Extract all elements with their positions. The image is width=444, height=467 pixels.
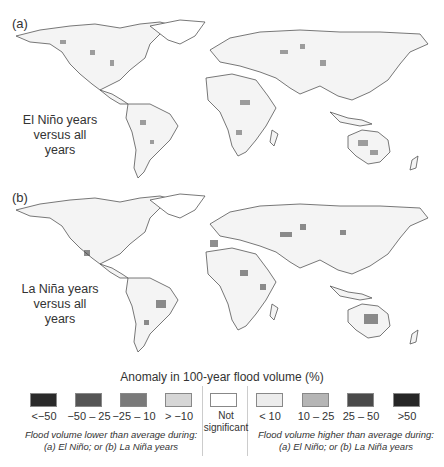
map-caption-la-nina: La Niña years versus all years <box>20 282 100 327</box>
swatch-25-50 <box>347 393 374 407</box>
swatch-gt-50 <box>393 393 420 407</box>
swatch-label: > −10 <box>154 410 204 422</box>
swatch-minus-25-10 <box>120 393 147 407</box>
map-panel-el-nino: (a) El Niño years versus all years <box>0 0 444 180</box>
swatch-label: <−50 <box>19 410 69 422</box>
caption-line1: El Niño years <box>20 113 100 128</box>
swatch-label: −25 – 10 <box>109 410 159 422</box>
swatch-label: 10 – 25 <box>291 410 341 422</box>
swatch-label: >50 <box>382 410 432 422</box>
swatch-label: < 10 <box>245 410 295 422</box>
note-line1: Flood volume higher than average during: <box>250 429 442 441</box>
caption-line2: versus all years <box>20 297 100 327</box>
note-line2: (a) El Niño; or (b) La Niña years <box>22 441 200 453</box>
panel-label-a: (a) <box>12 16 28 31</box>
swatch-lt-minus-50 <box>30 393 57 407</box>
note-line2: (a) El Niño; or (b) La Niña years <box>250 441 442 453</box>
swatch-label: −50 – 25 <box>64 410 114 422</box>
swatch-lt-10 <box>256 393 283 407</box>
note-line1: Flood volume lower than average during: <box>22 429 200 441</box>
swatch-label: 25 – 50 <box>336 410 386 422</box>
panel-label-b: (b) <box>12 190 28 205</box>
caption-line1: La Niña years <box>20 282 100 297</box>
swatch-gt-minus-10 <box>165 393 192 407</box>
legend: Anomaly in 100-year flood volume (%) <−5… <box>0 360 444 467</box>
legend-note-lower: Flood volume lower than average during: … <box>22 429 200 453</box>
legend-title: Anomaly in 100-year flood volume (%) <box>0 370 444 384</box>
caption-line2: versus all years <box>20 128 100 158</box>
swatch-minus-50-25 <box>75 393 102 407</box>
world-map-la-nina <box>0 180 444 360</box>
map-caption-el-nino: El Niño years versus all years <box>20 113 100 158</box>
swatch-not-significant <box>210 393 237 407</box>
swatch-10-25 <box>302 393 329 407</box>
legend-note-higher: Flood volume higher than average during:… <box>250 429 442 453</box>
map-panel-la-nina: (b) La Niña years versus all years <box>0 180 444 360</box>
ns-line2: significant <box>200 422 252 434</box>
